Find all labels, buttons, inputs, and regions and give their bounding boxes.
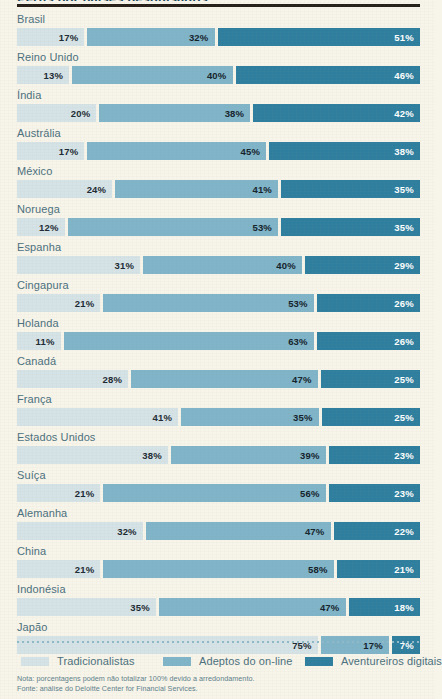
segment-online-adopters: 47% — [131, 370, 318, 388]
stacked-bar: 31%40%29% — [17, 256, 420, 274]
segment-traditionalists: 32% — [17, 522, 143, 540]
chart-row: Noruega12%53%35% — [0, 202, 435, 240]
segment-value-label: 11% — [36, 336, 61, 347]
segment-digital-adventurers: 21% — [337, 560, 420, 578]
segment-value-label: 56% — [300, 488, 326, 499]
segment-value-label: 40% — [207, 70, 233, 81]
legend-label: Adeptos do on-line — [199, 655, 293, 667]
country-label: México — [17, 164, 52, 179]
segment-value-label: 35% — [394, 184, 420, 195]
country-label: Japão — [17, 620, 47, 635]
segment-online-adopters: 63% — [64, 332, 314, 350]
stacked-bar: 11%63%26% — [17, 332, 420, 350]
segment-traditionalists: 17% — [17, 142, 84, 160]
segment-digital-adventurers: 51% — [218, 28, 420, 46]
segment-value-label: 17% — [59, 32, 85, 43]
stacked-bar: 35%47%18% — [17, 598, 420, 616]
segment-value-label: 13% — [44, 70, 70, 81]
chart-legend: TradicionalistasAdeptos do on-lineAventu… — [17, 652, 427, 670]
segment-digital-adventurers: 46% — [236, 66, 420, 84]
country-label: Austrália — [17, 126, 61, 141]
stacked-bar: 28%47%25% — [17, 370, 420, 388]
segment-value-label: 47% — [292, 374, 318, 385]
note-line-1: Nota: porcentagens podem não totalizar 1… — [17, 674, 417, 684]
segment-value-label: 40% — [276, 260, 302, 271]
segment-value-label: 28% — [103, 374, 129, 385]
country-label: Suíça — [17, 468, 46, 483]
segment-traditionalists: 12% — [17, 218, 65, 236]
segment-value-label: 38% — [142, 450, 168, 461]
chart-row: Suíça21%56%23% — [0, 468, 435, 506]
segment-value-label: 21% — [75, 564, 101, 575]
segment-digital-adventurers: 29% — [305, 256, 420, 274]
stacked-bar: 24%41%35% — [17, 180, 420, 198]
stacked-bar: 12%53%35% — [17, 218, 420, 236]
segment-value-label: 45% — [241, 146, 267, 157]
stacked-bar: 21%58%21% — [17, 560, 420, 578]
country-label: Indonésia — [17, 582, 66, 597]
segment-traditionalists: 35% — [17, 598, 156, 616]
segment-traditionalists: 21% — [17, 560, 100, 578]
segment-value-label: 25% — [394, 374, 420, 385]
segment-value-label: 47% — [320, 602, 346, 613]
country-label: Alemanha — [17, 506, 67, 521]
segment-value-label: 35% — [293, 412, 319, 423]
segment-online-adopters: 53% — [68, 218, 278, 236]
segment-digital-adventurers: 23% — [329, 446, 420, 464]
segment-traditionalists: 31% — [17, 256, 140, 274]
segment-digital-adventurers: 38% — [269, 142, 420, 160]
chart-title: Perfis por países pesquisados — [17, 0, 421, 1]
legend-divider — [17, 641, 420, 643]
segment-online-adopters: 41% — [115, 180, 278, 198]
segment-value-label: 38% — [394, 146, 420, 157]
stacked-bar: 32%47%22% — [17, 522, 420, 540]
legend-swatch-icon — [21, 657, 49, 666]
chart-row: Brasil17%32%51% — [0, 12, 435, 50]
segment-digital-adventurers: 35% — [281, 180, 420, 198]
segment-digital-adventurers: 25% — [321, 370, 420, 388]
segment-value-label: 21% — [75, 488, 101, 499]
chart-row: França41%35%25% — [0, 392, 435, 430]
segment-value-label: 41% — [252, 184, 278, 195]
segment-traditionalists: 21% — [17, 484, 100, 502]
segment-value-label: 32% — [189, 32, 215, 43]
segment-online-adopters: 32% — [87, 28, 214, 46]
chart-row: Alemanha32%47%22% — [0, 506, 435, 544]
country-label: Holanda — [17, 316, 59, 331]
stacked-bar: 17%45%38% — [17, 142, 420, 160]
chart-row: Austrália17%45%38% — [0, 126, 435, 164]
segment-value-label: 32% — [117, 526, 143, 537]
segment-online-adopters: 47% — [146, 522, 331, 540]
chart-notes: Nota: porcentagens podem não totalizar 1… — [17, 674, 417, 694]
segment-value-label: 58% — [308, 564, 334, 575]
segment-value-label: 25% — [394, 412, 420, 423]
segment-value-label: 35% — [394, 222, 420, 233]
segment-value-label: 41% — [153, 412, 179, 423]
stacked-bar: 20%38%42% — [17, 104, 420, 122]
segment-value-label: 29% — [394, 260, 420, 271]
chart-row: Estados Unidos38%39%23% — [0, 430, 435, 468]
segment-online-adopters: 47% — [159, 598, 346, 616]
country-label: França — [17, 392, 52, 407]
segment-traditionalists: 21% — [17, 294, 100, 312]
segment-traditionalists: 13% — [17, 66, 69, 84]
segment-value-label: 35% — [130, 602, 156, 613]
legend-swatch-icon — [163, 657, 191, 666]
segment-value-label: 38% — [225, 108, 251, 119]
country-label: Cingapura — [17, 278, 69, 293]
segment-online-adopters: 45% — [87, 142, 266, 160]
chart-row: Indonésia35%47%18% — [0, 582, 435, 620]
segment-traditionalists: 41% — [17, 408, 178, 426]
segment-value-label: 18% — [394, 602, 420, 613]
segment-traditionalists: 38% — [17, 446, 168, 464]
segment-online-adopters: 40% — [143, 256, 302, 274]
segment-online-adopters: 38% — [99, 104, 250, 122]
country-label: Canadá — [17, 354, 56, 369]
segment-value-label: 26% — [394, 298, 420, 309]
segment-value-label: 47% — [305, 526, 331, 537]
segment-online-adopters: 58% — [103, 560, 333, 578]
chart-row: Índia20%38%42% — [0, 88, 435, 126]
segment-value-label: 39% — [300, 450, 326, 461]
segment-traditionalists: 28% — [17, 370, 128, 388]
segment-value-label: 53% — [288, 298, 314, 309]
